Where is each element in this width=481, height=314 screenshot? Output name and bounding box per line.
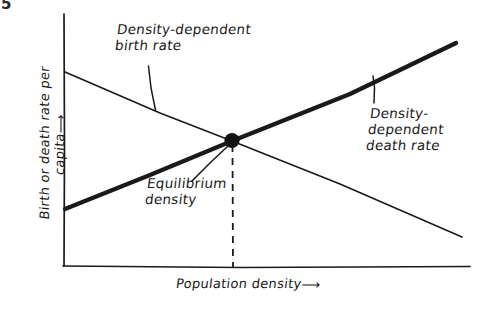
- equilibrium-point-marker: [224, 133, 239, 148]
- birth-rate-label: Density-dependent birth rate: [114, 22, 252, 54]
- x-axis-arrow-icon: ⟶: [301, 277, 322, 292]
- death-rate-label: Density- dependent death rate: [365, 106, 447, 154]
- birth-label-leader-line: [149, 66, 156, 110]
- y-axis-label: Birth or death rate per capita⟶: [37, 47, 68, 241]
- equilibrium-density-label: Equilibrium density: [144, 176, 228, 208]
- x-axis-label: Population density⟶: [175, 276, 321, 292]
- y-axis-arrow-icon: ⟶: [53, 113, 68, 134]
- population-density-equilibrium-diagram: 5 Density-dependent birth rate Density- …: [0, 0, 481, 314]
- y-axis-label-text: Birth or death rate per capita: [37, 65, 67, 220]
- birth-rate-curve: [65, 72, 462, 237]
- equilibrium-dropline: [233, 145, 234, 268]
- x-axis-label-text: Population density: [175, 276, 302, 291]
- x-axis-line: [63, 266, 470, 268]
